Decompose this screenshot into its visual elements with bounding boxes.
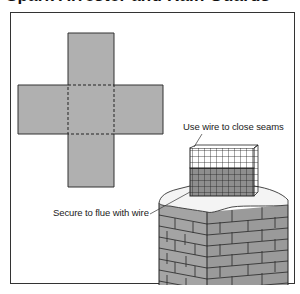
chimney — [155, 145, 295, 290]
label-close-seams: Use wire to close seams — [183, 121, 284, 132]
illustration — [0, 0, 300, 294]
cross-template — [18, 33, 163, 187]
label-secure-flue: Secure to flue with wire — [53, 207, 149, 218]
